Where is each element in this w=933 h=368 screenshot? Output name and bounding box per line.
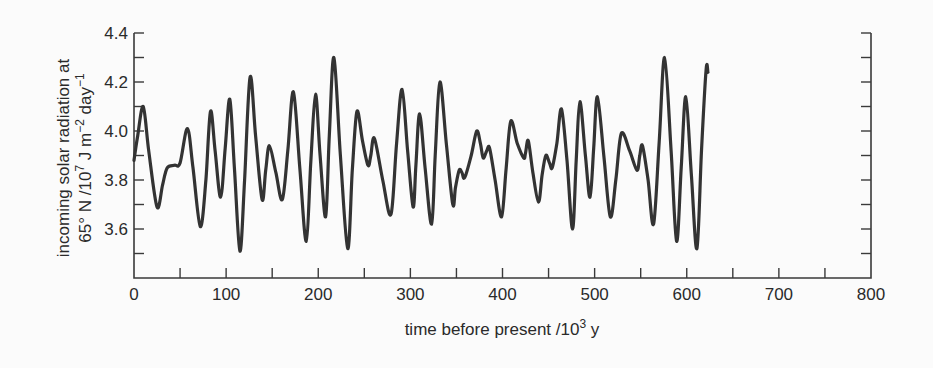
y-axis-title-line2: 65° N /107 J m−2 day−1: [73, 73, 95, 243]
chart-container: 3.63.84.04.24.40100200300400500600700800…: [0, 0, 933, 368]
x-tick-label: 600: [673, 285, 701, 304]
insolation-line-chart: 3.63.84.04.24.40100200300400500600700800…: [0, 0, 933, 368]
x-tick-label: 800: [857, 285, 885, 304]
y-tick-label: 4.2: [104, 73, 128, 92]
x-tick-label: 0: [129, 285, 138, 304]
y-tick-label: 3.8: [104, 171, 128, 190]
y-axis-title-line1: incoming solar radiation at: [54, 59, 73, 258]
y-tick-label: 4.0: [104, 122, 128, 141]
x-tick-label: 300: [396, 285, 424, 304]
x-tick-label: 200: [304, 285, 332, 304]
y-tick-label: 4.4: [104, 24, 128, 43]
x-tick-label: 400: [488, 285, 516, 304]
x-tick-label: 500: [580, 285, 608, 304]
x-axis-title: time before present /103 y: [405, 317, 600, 339]
x-tick-label: 100: [212, 285, 240, 304]
x-tick-label: 700: [765, 285, 793, 304]
insolation-series-line: [134, 57, 708, 251]
y-axis-title: incoming solar radiation at 65° N /107 J…: [54, 59, 95, 258]
y-tick-label: 3.6: [104, 220, 128, 239]
tick-labels: 3.63.84.04.24.40100200300400500600700800: [104, 24, 885, 304]
